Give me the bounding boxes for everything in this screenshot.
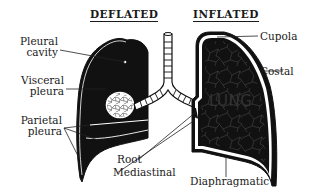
label-costal: Costal	[260, 66, 294, 77]
inflated-title: INFLATED	[193, 9, 259, 22]
label-root: Root	[117, 154, 142, 165]
label-parietal-pleura-line2: pleura	[0, 126, 62, 137]
label-parietal-pleura: Parietal pleura	[0, 115, 62, 137]
label-visceral-pleura-line2: pleura	[0, 86, 64, 97]
label-pleural-cavity: Pleural cavity	[0, 36, 58, 58]
label-visceral-pleura: Visceral pleura	[0, 75, 64, 97]
label-diaphragmatic: Diaphragmatic	[190, 176, 269, 187]
lung-label: LUNG	[209, 92, 252, 110]
deflated-title: DEFLATED	[90, 9, 158, 22]
label-pleural-cavity-line2: cavity	[0, 47, 58, 58]
label-cupola: Cupola	[260, 31, 297, 42]
lung-pleura-diagram: DEFLATED INFLATED Pleural cavity Viscera…	[0, 0, 312, 195]
label-mediastinal: Mediastinal	[113, 167, 176, 178]
